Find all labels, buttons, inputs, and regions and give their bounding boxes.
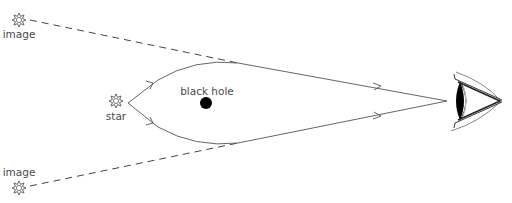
black-hole	[200, 97, 212, 109]
star-icon	[109, 94, 123, 108]
lensing-diagram: image star image black hole	[0, 0, 512, 203]
light-path-bottom	[128, 101, 447, 144]
black-hole-label: black hole	[180, 85, 234, 97]
apparent-ray-top	[30, 20, 238, 63]
light-path-top	[128, 62, 447, 103]
arrow-head	[146, 81, 153, 89]
eye-icon	[451, 72, 502, 131]
apparent-ray-bottom	[30, 143, 238, 186]
image-top-label: image	[3, 28, 36, 40]
image-bottom-label: image	[3, 166, 36, 178]
star-label: star	[106, 110, 127, 122]
image-bottom-icon	[12, 181, 26, 195]
image-top-icon	[12, 13, 26, 27]
